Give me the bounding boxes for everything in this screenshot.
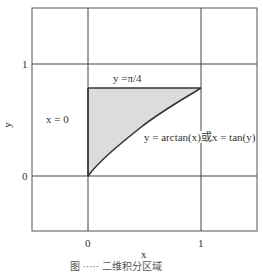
x-axis-label: x [141,248,147,260]
y-tick-1: 1 [22,58,28,70]
label-x-equals-0: x = 0 [46,113,69,125]
label-arctan-curve: y = arctan(x)或x = tan(y) [143,131,256,143]
x-tick-1: 1 [198,237,204,249]
y-tick-0: 0 [22,170,28,182]
label-y-pi-over-4: y =π/4 [113,72,142,84]
y-axis-label: y [1,122,13,128]
x-tick-0: 0 [85,237,91,249]
figure-caption: 图 ····· 二维积分区域 [70,262,162,272]
